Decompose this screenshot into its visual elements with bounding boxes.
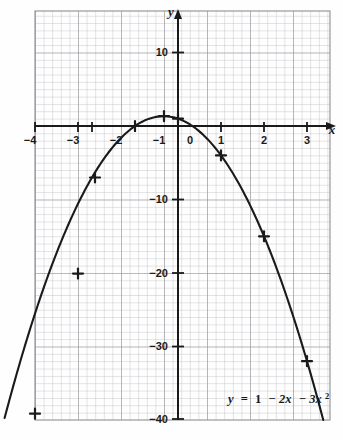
grid-major (35, 11, 330, 420)
y-tick-label: 10 (156, 46, 168, 58)
x-tick-label: −4 (24, 134, 37, 146)
y-tick-label: −20 (149, 267, 168, 279)
graph-canvas: −4 −3 −2 −1 0 1 2 3 10 −10 −20 −30 −40 x… (0, 0, 343, 440)
equation-constant: 1 (255, 392, 261, 406)
equation-linear-term: − 2x (268, 392, 291, 406)
x-tick-label: 2 (261, 134, 267, 146)
y-tick-label: −30 (149, 340, 168, 352)
figure-container: −4 −3 −2 −1 0 1 2 3 10 −10 −20 −30 −40 x… (0, 0, 343, 440)
y-tick-label: −10 (149, 193, 168, 205)
x-tick-label: 1 (218, 134, 224, 146)
x-tick-label: −1 (153, 134, 166, 146)
equation-lhs: y (226, 392, 234, 406)
equation-exponent: 2 (325, 391, 329, 401)
y-tick-label: −40 (149, 413, 168, 425)
x-tick-label-origin: 0 (187, 134, 193, 146)
svg-text:y = 1: y = 1 − 2x − 3x 2 (226, 391, 329, 406)
x-tick-label: −3 (67, 134, 80, 146)
x-tick-label: 3 (304, 134, 310, 146)
equation-quadratic-term: − 3x (299, 392, 322, 406)
x-axis-label: x (328, 122, 336, 137)
y-axis-label: y (166, 4, 174, 19)
equation-label: y = 1 − 2x − 3x 2 (226, 391, 329, 406)
equation-equals: = (241, 392, 248, 406)
